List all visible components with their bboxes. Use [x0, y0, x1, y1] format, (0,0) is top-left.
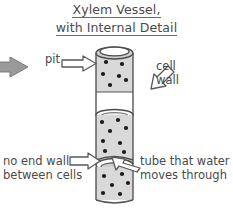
pit-dot — [101, 139, 105, 143]
pit-dot — [101, 191, 105, 195]
xylem-vessel-diagram: Xylem Vessel, with Internal Detail — [0, 0, 233, 214]
pit-dot — [124, 78, 128, 82]
label-pit: pit — [45, 53, 60, 67]
label-no-end-wall: no end wall between cells — [3, 155, 82, 182]
pit-dot — [116, 118, 120, 122]
label-tube-water-line-2: moves through — [140, 169, 230, 183]
pit-dot — [110, 183, 114, 187]
pit-dot — [118, 141, 122, 145]
vessel-segment-upper — [96, 47, 133, 92]
pit-dot — [120, 172, 124, 176]
pit-dot — [120, 62, 124, 66]
pit-dot — [108, 129, 112, 133]
label-cell-wall-line-1: cell — [156, 60, 179, 74]
pit-dot — [101, 72, 105, 76]
pit-dot — [100, 120, 104, 124]
pit-dot — [124, 126, 128, 130]
label-cell-wall-line-2: wall — [156, 74, 179, 88]
pit-dot — [117, 74, 121, 78]
pit-dot — [118, 192, 122, 196]
pit-dot — [126, 181, 130, 185]
water-flow-arrow-icon — [0, 57, 28, 77]
label-tube-water-line-1: tube that water — [140, 155, 230, 169]
pit-dot — [108, 83, 112, 87]
pit-dot — [104, 60, 108, 64]
pit-dot — [102, 174, 106, 178]
label-no-end-wall-line-2: between cells — [3, 169, 82, 183]
label-tube-water: tube that water moves through — [140, 155, 230, 182]
pit-dot — [122, 150, 126, 154]
label-cell-wall: cell wall — [156, 60, 179, 87]
pit-callout-arrow-icon — [62, 56, 96, 71]
label-no-end-wall-line-1: no end wall — [3, 155, 82, 169]
pit-dot — [103, 149, 107, 153]
